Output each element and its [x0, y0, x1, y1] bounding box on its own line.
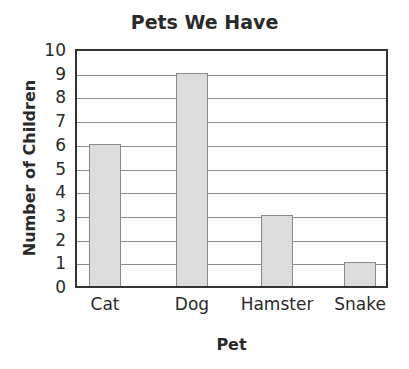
x-tick-label: Cat — [91, 294, 120, 314]
y-tick-label: 3 — [40, 206, 66, 226]
gridline — [77, 193, 386, 194]
bar-dog — [176, 73, 208, 286]
y-tick-label: 4 — [40, 182, 66, 202]
y-tick-label: 1 — [40, 253, 66, 273]
gridline — [77, 241, 386, 242]
bar-snake — [344, 262, 376, 286]
x-axis-label: Pet — [75, 335, 388, 354]
gridline — [77, 75, 386, 76]
gridline — [77, 217, 386, 218]
x-tick-label: Dog — [175, 294, 209, 314]
gridline — [77, 264, 386, 265]
y-tick-label: 6 — [40, 135, 66, 155]
gridline — [77, 98, 386, 99]
gridline — [77, 146, 386, 147]
x-tick-label: Snake — [334, 294, 386, 314]
bar-cat — [89, 144, 121, 286]
y-tick-label: 0 — [40, 277, 66, 297]
y-tick-label: 10 — [40, 40, 66, 60]
plot-area — [75, 49, 388, 288]
chart-title: Pets We Have — [0, 11, 409, 33]
y-tick-label: 9 — [40, 64, 66, 84]
y-axis-label: Number of Children — [20, 80, 39, 256]
gridline — [77, 170, 386, 171]
y-tick-label: 2 — [40, 230, 66, 250]
y-tick-label: 7 — [40, 111, 66, 131]
gridline — [77, 122, 386, 123]
bar-hamster — [261, 215, 293, 286]
y-tick-label: 8 — [40, 87, 66, 107]
y-tick-label: 5 — [40, 159, 66, 179]
x-tick-label: Hamster — [241, 294, 314, 314]
